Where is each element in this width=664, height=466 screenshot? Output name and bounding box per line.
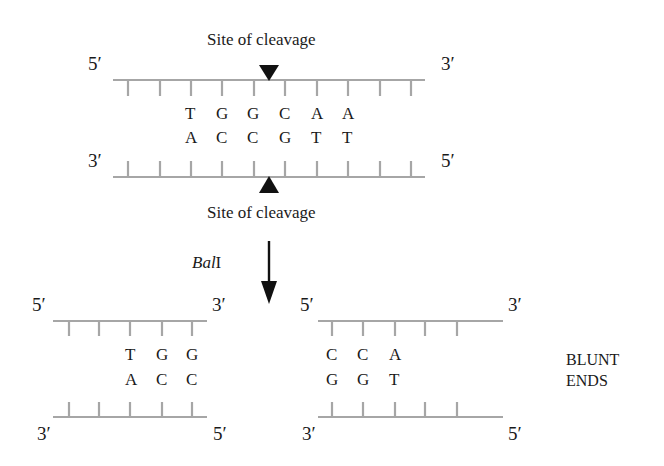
base: T xyxy=(342,128,352,148)
left-fragment-5prime-top: 5′ xyxy=(32,294,46,316)
base: C xyxy=(279,104,290,124)
left-fragment-3prime-top: 3′ xyxy=(212,294,226,316)
cleavage-marker-down-icon xyxy=(259,65,279,81)
base: T xyxy=(311,128,321,148)
right-fragment-lower-strand xyxy=(318,402,503,417)
top-strand-5prime-label: 5′ xyxy=(88,53,102,75)
base: G xyxy=(216,104,228,124)
left-fragment-lower-strand xyxy=(53,402,207,417)
base: A xyxy=(389,345,401,365)
enzyme-name-italic: Bal xyxy=(192,253,216,272)
base: G xyxy=(186,345,198,365)
base: G xyxy=(279,128,291,148)
blunt-ends-annotation: BLUNT ENDS xyxy=(566,349,619,391)
right-fragment-3prime-top: 3′ xyxy=(508,294,522,316)
annotation-line-2: ENDS xyxy=(566,370,619,391)
cleavage-label-top: Site of cleavage xyxy=(207,30,316,50)
base: T xyxy=(389,370,399,390)
base: C xyxy=(216,128,227,148)
bottom-strand-5prime-label: 5′ xyxy=(441,150,455,172)
enzyme-label: BalI xyxy=(192,253,221,273)
bottom-strand-3prime-label: 3′ xyxy=(88,150,102,172)
annotation-line-1: BLUNT xyxy=(566,349,619,370)
base: A xyxy=(311,104,323,124)
base: G xyxy=(326,370,338,390)
base: A xyxy=(125,370,137,390)
reaction-arrow-icon xyxy=(261,241,277,304)
base: T xyxy=(125,345,135,365)
base: C xyxy=(156,370,167,390)
base: C xyxy=(326,345,337,365)
base: C xyxy=(247,128,258,148)
right-fragment-5prime-bottom: 5′ xyxy=(508,423,522,445)
base: A xyxy=(342,104,354,124)
base: G xyxy=(247,104,259,124)
cleavage-label-bottom: Site of cleavage xyxy=(207,203,316,223)
base: C xyxy=(186,370,197,390)
top-strand-3prime-label: 3′ xyxy=(441,53,455,75)
enzyme-name-suffix: I xyxy=(216,253,222,272)
right-fragment-3prime-bottom: 3′ xyxy=(302,423,316,445)
right-fragment-upper-strand xyxy=(318,321,503,336)
top-duplex-lower-strand xyxy=(113,161,425,177)
base: T xyxy=(185,104,195,124)
left-fragment-5prime-bottom: 5′ xyxy=(213,423,227,445)
top-duplex-upper-strand xyxy=(113,80,425,96)
base: G xyxy=(357,370,369,390)
base: G xyxy=(156,345,168,365)
left-fragment-upper-strand xyxy=(53,321,207,336)
right-fragment-5prime-top: 5′ xyxy=(300,294,314,316)
cleavage-marker-up-icon xyxy=(259,176,279,193)
base: A xyxy=(185,128,197,148)
left-fragment-3prime-bottom: 3′ xyxy=(37,423,51,445)
base: C xyxy=(357,345,368,365)
